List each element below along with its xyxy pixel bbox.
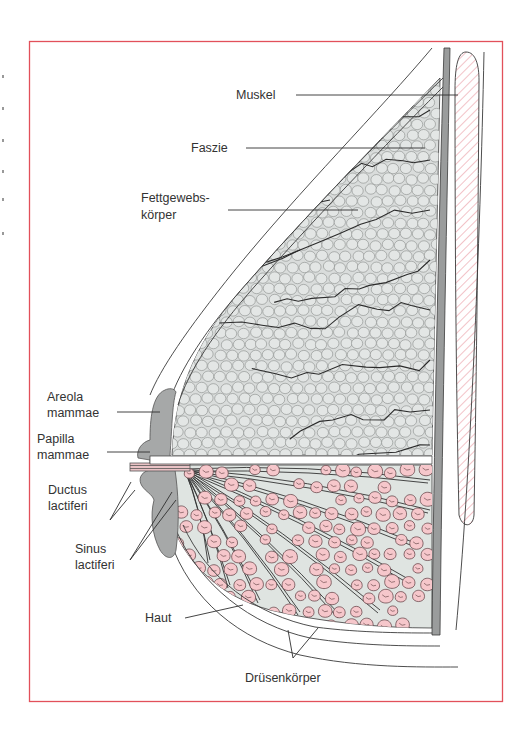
fat-lobule (370, 109, 381, 119)
gland-lobule (351, 580, 362, 590)
fat-lobule (184, 75, 195, 85)
fat-lobule (365, 338, 376, 348)
fat-lobule (279, 274, 290, 284)
fat-lobule (221, 340, 232, 350)
fat-lobule (430, 195, 441, 205)
fat-lobule (341, 404, 352, 414)
fat-lobule (256, 163, 267, 173)
fat-lobule (376, 427, 387, 437)
fat-lobule (352, 316, 363, 326)
tissue-separator (150, 456, 432, 464)
fat-lobule (221, 229, 232, 239)
fat-lobule (225, 328, 236, 338)
fat-lobule (365, 229, 376, 239)
fat-lobule (202, 416, 213, 426)
fat-lobule (394, 240, 405, 250)
fat-lobule (263, 151, 274, 161)
fat-lobule (160, 98, 171, 108)
fat-lobule (202, 393, 213, 403)
fat-lobule (388, 75, 399, 85)
fat-lobule (160, 119, 171, 129)
fat-lobule (238, 174, 249, 184)
fat-lobule (286, 305, 297, 315)
fat-lobule (329, 184, 340, 194)
fat-lobule (221, 118, 232, 128)
fat-lobule (237, 108, 248, 118)
fat-lobule (323, 283, 334, 293)
fat-lobule (299, 85, 310, 95)
fat-lobule (311, 394, 322, 404)
fat-lobule (219, 96, 230, 106)
lobule-detail (227, 625, 233, 627)
fat-lobule (190, 327, 201, 337)
fat-lobule (166, 109, 177, 119)
fat-lobule (280, 96, 291, 106)
fat-lobule (268, 162, 279, 172)
fat-lobule (419, 283, 430, 293)
fat-lobule (389, 186, 400, 196)
fat-lobule (213, 86, 224, 96)
fat-lobule (341, 338, 352, 348)
fat-lobule (196, 382, 207, 392)
fat-lobule (263, 131, 274, 141)
fat-lobule (161, 251, 172, 261)
gland-lobule (404, 521, 415, 531)
gland-lobule (198, 491, 212, 504)
fat-lobule (311, 152, 322, 162)
fat-lobule (376, 250, 387, 260)
label-fettgewebs: Fettgewebs- (141, 190, 210, 206)
fat-lobule (292, 250, 303, 260)
fat-lobule (329, 273, 340, 283)
fat-lobule (303, 405, 314, 415)
fat-lobule (239, 305, 250, 315)
fat-lobule (358, 173, 369, 183)
fat-lobule (262, 393, 273, 403)
fat-lobule (227, 174, 238, 184)
gland-lobule (384, 548, 396, 559)
gland-lobule (351, 522, 366, 536)
fat-lobule (293, 316, 304, 326)
fat-lobule (395, 218, 406, 228)
fat-lobule (305, 206, 316, 216)
fat-lobule (244, 142, 255, 152)
gland-lobule (214, 578, 227, 591)
label-haut: Haut (145, 610, 171, 626)
fat-lobule (262, 240, 273, 250)
fat-lobule (387, 163, 398, 173)
fat-lobule (160, 362, 171, 372)
fat-lobule (298, 195, 309, 205)
areola-nipple (138, 389, 179, 558)
gland-lobule (386, 496, 398, 507)
fat-lobule (287, 130, 298, 140)
lobule-detail (296, 625, 302, 627)
fat-lobule (209, 118, 220, 128)
fat-lobule (411, 141, 422, 151)
gland-lobule (266, 493, 279, 505)
fat-lobule (389, 317, 400, 327)
gland-lobule (234, 580, 246, 591)
gland-lobule (318, 605, 332, 618)
fat-lobule (395, 416, 406, 426)
fat-lobule (418, 196, 429, 206)
fat-lobule (388, 294, 399, 304)
fat-lobule (376, 207, 387, 217)
fat-lobule (226, 107, 237, 117)
fat-lobule (172, 361, 183, 371)
fat-lobule (340, 97, 351, 107)
fat-lobule (178, 439, 189, 449)
fat-lobule (388, 119, 399, 129)
gland-lobule (316, 548, 329, 560)
fat-lobule (305, 229, 316, 239)
fat-lobule (412, 185, 423, 195)
fat-lobule (166, 372, 177, 382)
gland-lobule (309, 535, 322, 547)
fat-lobule (305, 316, 316, 326)
gland-tissue (150, 462, 435, 633)
fat-lobule (407, 196, 418, 206)
fat-lobule (292, 273, 303, 283)
fat-lobule (280, 140, 291, 150)
fat-lobule (347, 350, 358, 360)
fat-lobule (280, 427, 291, 437)
gland-lobule (250, 465, 261, 475)
fat-lobule (221, 427, 232, 437)
